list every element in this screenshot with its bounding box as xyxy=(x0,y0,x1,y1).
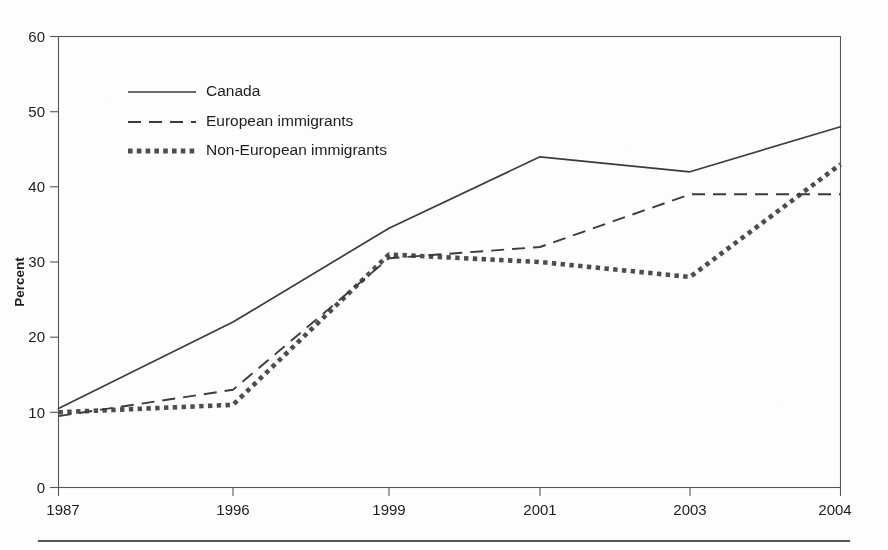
chart-figure: 60 50 40 30 20 10 0 Percent 1987 1996 19… xyxy=(0,0,888,550)
chart-legend: Canada European immigrants Non-European … xyxy=(128,82,387,158)
series-european-immigrants xyxy=(59,194,841,416)
y-axis: 60 50 40 30 20 10 0 Percent xyxy=(12,28,59,496)
x-axis: 1987 1996 1999 2001 2003 2004 xyxy=(46,488,851,519)
y-tick-label-20: 20 xyxy=(28,328,45,345)
x-tick-label-2004: 2004 xyxy=(818,501,851,518)
y-tick-label-40: 40 xyxy=(28,178,45,195)
series-canada xyxy=(59,127,841,409)
x-tick-label-2003: 2003 xyxy=(673,501,706,518)
legend-label-european-immigrants: European immigrants xyxy=(206,112,354,129)
legend-label-canada: Canada xyxy=(206,82,261,99)
x-tick-label-1996: 1996 xyxy=(216,501,249,518)
line-chart: 60 50 40 30 20 10 0 Percent 1987 1996 19… xyxy=(0,0,888,550)
y-tick-label-0: 0 xyxy=(37,479,45,496)
y-axis-title: Percent xyxy=(12,257,27,307)
y-tick-label-10: 10 xyxy=(28,404,45,421)
x-tick-label-1999: 1999 xyxy=(372,501,405,518)
x-tick-label-2001: 2001 xyxy=(523,501,556,518)
series-group xyxy=(59,127,841,416)
legend-label-non-european-immigrants: Non-European immigrants xyxy=(206,141,387,158)
x-tick-label-1987: 1987 xyxy=(46,501,79,518)
y-tick-label-50: 50 xyxy=(28,103,45,120)
y-tick-label-60: 60 xyxy=(28,28,45,45)
y-tick-label-30: 30 xyxy=(28,253,45,270)
series-non-european-immigrants xyxy=(59,164,841,412)
plot-border xyxy=(59,37,841,488)
